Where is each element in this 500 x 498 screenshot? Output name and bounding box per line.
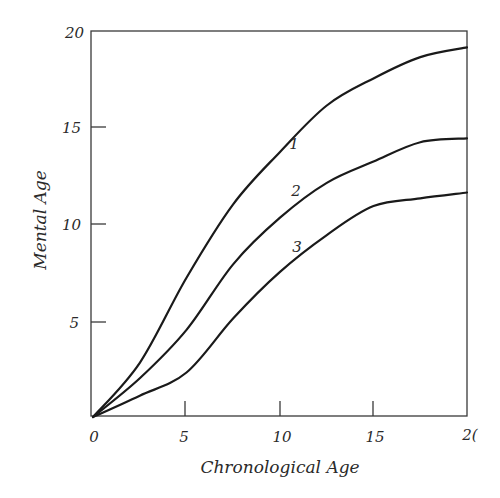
y-tick-label-20: 20 bbox=[64, 24, 85, 42]
curve-2 bbox=[93, 138, 467, 417]
x-axis-title: Chronological Age bbox=[200, 457, 359, 477]
curve-3 bbox=[93, 193, 467, 418]
y-tick-label-5: 5 bbox=[69, 314, 79, 332]
y-ticks bbox=[91, 127, 106, 322]
y-tick-label-10: 10 bbox=[62, 216, 82, 234]
plot-frame bbox=[91, 31, 467, 416]
x-ticks bbox=[185, 401, 373, 416]
x-tick-label-15: 15 bbox=[365, 428, 384, 446]
x-tick-label-5: 5 bbox=[179, 428, 189, 446]
curve-label-3: 3 bbox=[292, 238, 302, 256]
y-axis-title: Mental Age bbox=[30, 170, 50, 270]
curve-label-2: 2 bbox=[290, 182, 301, 200]
y-tick-label-15: 15 bbox=[62, 119, 81, 137]
x-tick-label-0: 0 bbox=[89, 428, 99, 446]
curve-1 bbox=[93, 47, 467, 417]
x-tick-label-10: 10 bbox=[272, 428, 292, 446]
curve-label-1: 1 bbox=[289, 135, 299, 153]
x-tick-label-20: 2( bbox=[461, 426, 479, 444]
mental-age-chart: 5 10 15 20 0 5 10 15 2( Chronological Ag… bbox=[0, 0, 500, 498]
